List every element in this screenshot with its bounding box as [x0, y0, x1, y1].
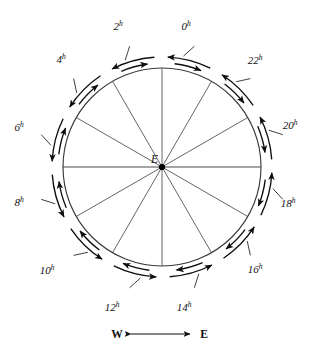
hour-label-10: 10h [40, 263, 55, 276]
center-label: E [150, 153, 158, 165]
leader-line [194, 274, 198, 288]
hour-label-16: 16h [248, 262, 263, 275]
leader-line [247, 241, 250, 255]
legend-east-label: E [200, 328, 208, 340]
legend: W E [111, 328, 208, 340]
leader-line [184, 46, 195, 56]
leader-line [130, 278, 141, 288]
figure-canvas: 0h2h4h6h8h10h12h14h16h18h20h22h E W E [0, 0, 327, 351]
hour-label-8: 8h [14, 195, 24, 208]
hour-label-4: 4h [56, 52, 66, 65]
hour-label-6: 6h [14, 120, 24, 133]
leader-line [41, 135, 51, 146]
leader-line [236, 79, 250, 82]
hour-label-20: 20h [283, 118, 298, 131]
center-point [159, 164, 165, 170]
hour-label-22: 22h [248, 53, 263, 66]
legend-west-label: W [111, 328, 123, 340]
leader-line [269, 130, 283, 134]
hour-label-0: 0h [181, 19, 191, 32]
hour-label-18: 18h [281, 196, 296, 209]
tidal-hour-diagram: 0h2h4h6h8h10h12h14h16h18h20h22h E W E [0, 0, 327, 351]
hour-label-2: 2h [113, 19, 123, 32]
hour-label-group: 0h2h4h6h8h10h12h14h16h18h20h22h [14, 19, 297, 313]
leader-line [74, 252, 88, 255]
hour-label-14: 14h [177, 300, 192, 313]
leader-line [41, 199, 55, 203]
leader-line [125, 46, 129, 60]
hour-label-12: 12h [105, 300, 120, 313]
leader-line [74, 79, 77, 93]
